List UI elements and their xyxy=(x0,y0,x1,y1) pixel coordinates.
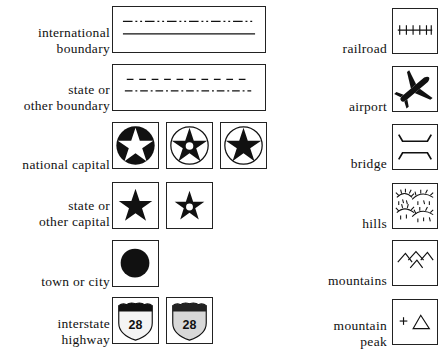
label-town-or-city: town or city xyxy=(41,274,110,290)
label-mountains: mountains xyxy=(328,273,387,289)
railroad-track-icon xyxy=(393,9,437,53)
label-state-boundary: state or other boundary xyxy=(24,82,110,114)
label-bridge: bridge xyxy=(351,156,387,172)
airplane-icon xyxy=(393,67,437,111)
label-line: mountains xyxy=(328,273,387,289)
label-line: hills xyxy=(362,216,387,232)
label-line: town or city xyxy=(41,274,110,290)
state-capital-symbol-2 xyxy=(166,182,213,229)
label-line: other capital xyxy=(39,214,110,230)
label-line: state or xyxy=(24,82,110,98)
label-line: airport xyxy=(349,99,387,115)
filled-circle-icon xyxy=(113,241,158,286)
label-state-capital: state or other capital xyxy=(39,198,110,230)
interstate-shield-symbol-1: 28 xyxy=(112,297,159,344)
shield-number: 28 xyxy=(129,318,143,332)
label-line: national capital xyxy=(22,157,110,173)
label-international-boundary: international boundary xyxy=(38,25,110,57)
label-line: highway xyxy=(58,332,110,348)
hills-symbol xyxy=(392,183,438,229)
dashed-lines-icon xyxy=(113,65,265,110)
label-line: international xyxy=(38,25,110,41)
star-in-filled-circle-icon xyxy=(113,123,158,168)
label-line: state or xyxy=(39,198,110,214)
peak-plus-triangle-icon xyxy=(393,300,437,344)
airport-symbol xyxy=(392,66,438,112)
town-or-city-symbol xyxy=(112,240,159,287)
label-line: mountain xyxy=(334,318,387,334)
national-capital-symbol-2 xyxy=(166,122,213,169)
label-line: bridge xyxy=(351,156,387,172)
international-boundary-symbol xyxy=(112,6,266,53)
mountains-icon xyxy=(393,241,437,285)
star-dot-in-circle-icon xyxy=(167,123,212,168)
mountain-peak-symbol xyxy=(392,299,438,345)
shield-number: 28 xyxy=(183,318,197,332)
railroad-symbol xyxy=(392,8,438,54)
hills-hachure-icon xyxy=(393,184,437,228)
label-mountain-peak: mountain peak xyxy=(334,318,387,350)
national-capital-symbol-1 xyxy=(112,122,159,169)
national-capital-symbol-3 xyxy=(220,122,267,169)
state-capital-symbol-1 xyxy=(112,182,159,229)
label-airport: airport xyxy=(349,99,387,115)
label-line: interstate xyxy=(58,316,110,332)
label-hills: hills xyxy=(362,216,387,232)
label-interstate-highway: interstate highway xyxy=(58,316,110,348)
label-line: boundary xyxy=(38,41,110,57)
label-railroad: railroad xyxy=(343,41,387,57)
interstate-shield-gray-icon: 28 xyxy=(167,298,212,343)
interstate-shield-icon: 28 xyxy=(113,298,158,343)
label-line: railroad xyxy=(343,41,387,57)
state-boundary-symbol xyxy=(112,64,266,111)
bridge-symbol xyxy=(392,124,438,170)
interstate-shield-symbol-2: 28 xyxy=(166,297,213,344)
boundary-lines-icon xyxy=(113,7,265,52)
star-with-dot-icon xyxy=(167,183,212,228)
star-in-circle-icon xyxy=(221,123,266,168)
mountains-symbol xyxy=(392,240,438,286)
label-national-capital: national capital xyxy=(22,157,110,173)
label-line: peak xyxy=(334,334,387,350)
bridge-icon xyxy=(393,125,437,169)
label-line: other boundary xyxy=(24,98,110,114)
filled-star-icon xyxy=(113,183,158,228)
